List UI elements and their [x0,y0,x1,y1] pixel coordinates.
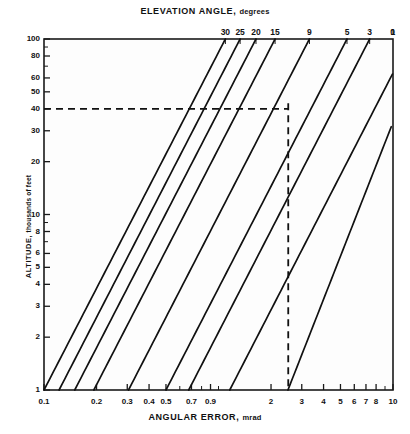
top-axis-label-15: 15 [267,27,283,37]
y-tick-label-6: 6 [14,248,40,257]
x-tick-label-4: 4 [316,397,332,406]
chart-figure: ELEVATION ANGLE, degrees ANGULAR ERROR, … [0,0,410,434]
top-axis-label-3: 3 [362,27,378,37]
y-tick-label-20: 20 [14,157,40,166]
plot-canvas [0,0,410,434]
y-tick-label-2: 2 [14,332,40,341]
top-axis-label-9: 9 [301,27,317,37]
x-tick-label-0.2: 0.2 [86,397,108,406]
y-tick-label-10: 10 [14,210,40,219]
x-tick-label-0.9: 0.9 [200,397,222,406]
y-tick-label-80: 80 [14,51,40,60]
y-tick-label-40: 40 [14,104,40,113]
x-tick-label-3: 3 [294,397,310,406]
x-tick-label-2: 2 [263,397,279,406]
top-axis-label-30: 30 [217,27,233,37]
y-tick-label-50: 50 [14,87,40,96]
x-tick-label-0.1: 0.1 [33,397,55,406]
top-axis-label-20: 20 [248,27,264,37]
y-tick-label-1: 1 [14,385,40,394]
top-axis-label-25: 25 [232,27,248,37]
y-tick-label-30: 30 [14,126,40,135]
x-tick-label-8: 8 [368,397,384,406]
x-tick-label-0.5: 0.5 [155,397,177,406]
top-axis-label-0: 0 [385,27,401,37]
y-tick-label-4: 4 [14,279,40,288]
top-axis-label-5: 5 [339,27,355,37]
x-tick-label-10: 10 [385,397,401,406]
y-tick-label-5: 5 [14,262,40,271]
y-tick-label-3: 3 [14,301,40,310]
x-tick-label-0.3: 0.3 [116,397,138,406]
y-tick-label-8: 8 [14,227,40,236]
y-tick-label-100: 100 [14,34,40,43]
y-tick-label-60: 60 [14,73,40,82]
